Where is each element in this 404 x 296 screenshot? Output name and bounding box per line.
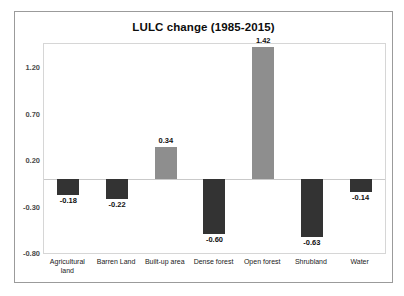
y-axis-tick-label: 0.20	[25, 156, 40, 165]
bar-value-label: -0.22	[108, 200, 125, 209]
bars-layer: -0.18-0.220.34-0.601.42-0.63-0.14	[44, 44, 385, 253]
y-axis-tick-label: -0.30	[23, 202, 40, 211]
y-axis-tick-label: 0.70	[25, 109, 40, 118]
chart-frame: LULC change (1985-2015) -0.18-0.220.34-0…	[14, 11, 393, 283]
bar-shrubland[interactable]	[301, 179, 323, 238]
category-label: Dense forest	[189, 257, 238, 266]
bar-slot: -0.60	[190, 44, 239, 253]
bar-slot: -0.18	[44, 44, 93, 253]
bar-slot: -0.22	[93, 44, 142, 253]
bar-value-label: -0.60	[206, 235, 223, 244]
bar-value-label: -0.63	[303, 238, 320, 247]
bar-open-forest[interactable]	[252, 47, 274, 179]
bar-dense-forest[interactable]	[203, 179, 225, 235]
bar-slot: -0.63	[288, 44, 337, 253]
y-axis-tick-label: 1.20	[25, 63, 40, 72]
bar-slot: 0.34	[141, 44, 190, 253]
category-label: Open forest	[238, 257, 287, 266]
plot-area: -0.18-0.220.34-0.601.42-0.63-0.14 1.200.…	[43, 43, 386, 254]
bar-slot: 1.42	[239, 44, 288, 253]
bar-value-label: -0.14	[352, 193, 369, 202]
bar-slot: -0.14	[336, 44, 385, 253]
y-axis-tick-label: -0.80	[23, 249, 40, 258]
bar-agricultural-land[interactable]	[57, 179, 79, 196]
category-label: Built-up area	[140, 257, 189, 266]
category-label: Shrubland	[287, 257, 336, 266]
category-label: Agricultural land	[43, 257, 92, 276]
chart-title: LULC change (1985-2015)	[15, 21, 392, 33]
category-label: Barren Land	[92, 257, 141, 266]
bar-built-up-area[interactable]	[155, 147, 177, 179]
bar-value-label: 0.34	[158, 136, 173, 145]
category-label: Water	[335, 257, 384, 266]
bar-value-label: -0.18	[60, 196, 77, 205]
bar-value-label: 1.42	[256, 36, 271, 45]
bar-barren-land[interactable]	[106, 179, 128, 199]
bar-water[interactable]	[350, 179, 372, 192]
